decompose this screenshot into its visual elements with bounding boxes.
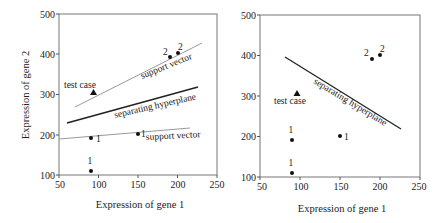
left-y-axis: 500 400 300 200 100 [40, 9, 59, 181]
data-point [136, 132, 140, 136]
point-label: 1 [88, 156, 93, 166]
right-xtick: 250 [412, 181, 427, 192]
right-plot: 500 400 300 200 100 50 100 150 200 250 E… [241, 10, 427, 215]
right-x-axis-label: Expression of gene 1 [298, 203, 386, 214]
right-ytick: 500 [241, 10, 256, 21]
hyperplane-label: separating hyperplane [113, 91, 197, 120]
left-ytick: 200 [40, 130, 55, 141]
left-ytick: 500 [40, 9, 55, 20]
data-point [89, 136, 93, 140]
left-xtick: 150 [131, 179, 146, 190]
point-label: 1 [96, 134, 101, 144]
left-ytick: 400 [40, 49, 55, 60]
point-label: 2 [178, 42, 183, 52]
right-xtick: 50 [257, 181, 267, 192]
right-y-axis: 500 400 300 200 100 [241, 10, 260, 183]
point-label: 2 [380, 44, 385, 54]
test-case-label: test case [274, 96, 306, 106]
data-point [168, 55, 172, 59]
right-ytick: 400 [241, 50, 256, 61]
data-point [89, 169, 93, 173]
left-xtick: 50 [55, 179, 65, 190]
right-ytick: 200 [241, 131, 256, 142]
right-ytick: 300 [241, 91, 256, 102]
point-label: 2 [163, 47, 168, 57]
data-point [290, 171, 294, 175]
data-point [370, 57, 374, 61]
left-xtick: 200 [171, 179, 186, 190]
point-label: 1 [344, 132, 349, 142]
left-plot: 500 400 300 200 100 50 100 150 200 250 E… [20, 9, 225, 211]
point-label: 2 [364, 48, 369, 58]
left-ytick: 300 [40, 89, 55, 100]
right-xtick: 100 [294, 181, 309, 192]
left-xtick: 250 [210, 179, 225, 190]
left-xtick: 100 [92, 179, 107, 190]
left-x-axis: 50 100 150 200 250 [55, 175, 225, 190]
right-x-axis: 50 100 150 200 250 [257, 177, 427, 192]
right-xtick: 200 [373, 181, 388, 192]
point-label: 1 [141, 129, 146, 139]
point-label: 1 [289, 158, 294, 168]
data-point [290, 138, 294, 142]
right-ytick: 100 [241, 172, 256, 183]
test-case-label: test case [64, 80, 96, 90]
figure: 500 400 300 200 100 50 100 150 200 250 E… [0, 0, 448, 223]
left-y-axis-label: Expression of gene 2 [20, 51, 31, 139]
data-point [338, 134, 342, 138]
lower-support-vector-label: support vector [146, 129, 202, 142]
left-ytick: 100 [40, 170, 55, 181]
left-x-axis-label: Expression of gene 1 [96, 199, 184, 210]
hyperplane-label: separating hyperplane [312, 76, 389, 128]
right-xtick: 150 [334, 181, 349, 192]
point-label: 1 [289, 125, 294, 135]
